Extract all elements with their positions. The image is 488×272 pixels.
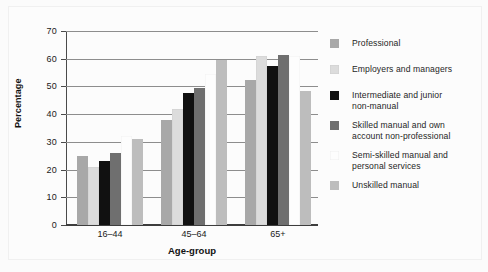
y-axis-tick-label: 20	[47, 165, 57, 175]
bar	[300, 91, 311, 225]
legend-item[interactable]: Skilled manual and ownaccount non-profes…	[330, 120, 450, 142]
y-axis-tick	[61, 31, 66, 32]
legend-swatch	[330, 121, 339, 130]
legend-swatch	[330, 91, 339, 100]
y-axis-tick	[61, 197, 66, 198]
y-axis-tick-label: 30	[47, 137, 57, 147]
bar	[183, 93, 194, 225]
legend-label: Unskilled manual	[352, 180, 419, 191]
y-axis-tick	[61, 114, 66, 115]
legend-label: Employers and managers	[352, 64, 452, 75]
legend-swatch	[330, 181, 339, 190]
y-axis-tick-label: 10	[47, 192, 57, 202]
bar	[205, 74, 216, 225]
y-axis-tick-label: 50	[47, 81, 57, 91]
y-axis-tick	[61, 170, 66, 171]
bar	[99, 161, 110, 225]
legend-swatch	[330, 65, 339, 74]
bar	[256, 56, 267, 225]
legend-label: Intermediate and juniornon-manual	[352, 90, 442, 112]
y-axis-tick	[61, 225, 66, 226]
bar	[121, 136, 132, 225]
bar	[278, 55, 289, 225]
bar	[267, 66, 278, 225]
legend-item[interactable]: Intermediate and juniornon-manual	[330, 90, 442, 112]
x-axis-tick-label: 45–64	[181, 229, 206, 239]
bar	[245, 80, 256, 226]
legend-label: Professional	[352, 38, 401, 49]
y-axis-tick-label: 60	[47, 54, 57, 64]
bar	[161, 120, 172, 225]
legend-swatch	[330, 151, 339, 160]
bar	[172, 109, 183, 225]
bar	[289, 56, 300, 225]
legend-label: Semi-skilled manual andpersonal services	[352, 150, 448, 172]
bar-group	[77, 31, 143, 225]
y-axis-tick-label: 0	[52, 220, 57, 230]
bar-group	[245, 31, 311, 225]
y-axis-tick	[61, 59, 66, 60]
legend-swatch	[330, 39, 339, 48]
figure: Percentage 010203040506070 16–4445–6465+…	[0, 0, 488, 272]
legend-item[interactable]: Unskilled manual	[330, 180, 419, 191]
legend-item[interactable]: Employers and managers	[330, 64, 452, 75]
legend-item[interactable]: Semi-skilled manual andpersonal services	[330, 150, 448, 172]
x-axis-tick-label: 65+	[270, 229, 285, 239]
legend-label: Skilled manual and ownaccount non-profes…	[352, 120, 450, 142]
x-axis-title: Age-group	[66, 245, 318, 256]
y-axis-tick-label: 40	[47, 109, 57, 119]
bar	[110, 153, 121, 225]
y-axis-tick	[61, 86, 66, 87]
y-axis-line	[66, 31, 67, 225]
bar	[88, 167, 99, 225]
y-axis-tick-label: 70	[47, 26, 57, 36]
plot-area: 010203040506070 16–4445–6465+ Age-group	[66, 31, 318, 225]
x-axis-tick-label: 16–44	[97, 229, 122, 239]
bar	[194, 88, 205, 225]
y-axis-title: Percentage	[13, 78, 23, 128]
y-axis-tick	[61, 142, 66, 143]
legend-item[interactable]: Professional	[330, 38, 401, 49]
bar-group	[161, 31, 227, 225]
bar	[216, 60, 227, 225]
bar	[77, 156, 88, 225]
bar	[132, 139, 143, 225]
